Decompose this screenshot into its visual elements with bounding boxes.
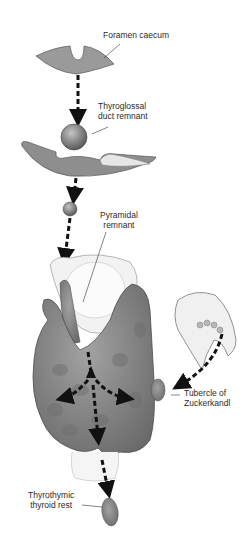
label-text: Thyroglossal xyxy=(98,101,148,111)
label-text: Tubercle of xyxy=(184,388,230,398)
hyoid-bone xyxy=(22,142,156,177)
label-thyroglossal-duct-remnant: Thyroglossal duct remnant xyxy=(98,101,148,121)
thyroid-descent-diagram xyxy=(0,0,252,548)
label-text: remnant xyxy=(100,220,138,230)
intermediate-remnant xyxy=(63,202,77,216)
label-text: Foramen caecum xyxy=(103,30,169,40)
descent-arrow-3 xyxy=(65,218,70,257)
label-text: duct remnant xyxy=(98,111,148,121)
label-tubercle-of-zuckerkandl: Tubercle of Zuckerkandl xyxy=(184,388,230,408)
label-thyrothymic-thyroid-rest: Thyrothymic thyroid rest xyxy=(28,490,74,510)
tongue-foramen-caecum xyxy=(36,46,114,74)
label-text: thyroid rest xyxy=(28,500,74,510)
descent-arrow-2 xyxy=(74,178,76,196)
label-text: Pyramidal xyxy=(100,210,138,220)
label-foramen-caecum: Foramen caecum xyxy=(103,30,169,40)
trachea xyxy=(71,452,118,481)
label-pyramidal-remnant: Pyramidal remnant xyxy=(100,210,138,230)
label-text: Zuckerkandl xyxy=(184,398,230,408)
thyroglossal-remnant xyxy=(61,124,87,150)
tubercle-of-zuckerkandl xyxy=(151,379,165,401)
thyrothymic-rest xyxy=(100,497,120,527)
embryo-inset xyxy=(175,292,236,370)
label-text: Thyrothymic xyxy=(28,490,74,500)
